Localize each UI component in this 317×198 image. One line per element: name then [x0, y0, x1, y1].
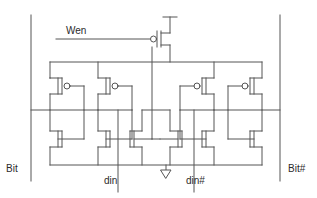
- schematic-canvas: Wen Bit Bit# din din#: [0, 0, 317, 198]
- din-hash-label: din#: [186, 176, 205, 186]
- pmos-bubble-icon: [242, 83, 248, 89]
- bit-hash-label: Bit#: [288, 164, 305, 174]
- din-label: din: [104, 176, 117, 186]
- circuit-schematic: [0, 0, 317, 198]
- pmos-bubble-icon: [112, 83, 118, 89]
- pmos-bubble-icon: [64, 83, 70, 89]
- bit-label: Bit: [6, 164, 18, 174]
- wen-label: Wen: [66, 26, 86, 36]
- pmos-bubble-icon: [151, 36, 157, 42]
- pmos-bubble-icon: [194, 83, 200, 89]
- ground-icon: [161, 170, 171, 178]
